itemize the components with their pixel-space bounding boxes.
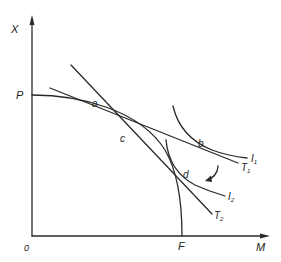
ppf-diagram: X M 0 P F a c b d I1 T1 I2 T2 <box>0 0 281 262</box>
label-T1: T1 <box>241 162 250 174</box>
x-axis-label: M <box>256 241 266 253</box>
line-T1 <box>50 88 238 163</box>
y-axis-label: X <box>10 23 19 35</box>
point-a-label: a <box>92 98 98 109</box>
y-axis-arrow-icon <box>30 15 35 25</box>
label-T2: T2 <box>214 210 224 222</box>
point-b-label: b <box>198 138 204 149</box>
line-T2 <box>71 65 212 214</box>
f-intercept-label: F <box>178 240 186 252</box>
indifference-curve-I2 <box>166 140 225 196</box>
x-axis-arrow-icon <box>260 234 270 239</box>
label-I1: I1 <box>251 153 257 165</box>
p-intercept-label: P <box>16 89 24 101</box>
point-d-label: d <box>183 169 189 180</box>
shift-arrow-head-icon <box>205 176 212 183</box>
ppf-curve <box>32 95 182 236</box>
point-c-label: c <box>120 133 125 144</box>
indifference-curve-I1 <box>173 106 247 158</box>
label-I2: I2 <box>228 191 235 203</box>
origin-label: 0 <box>24 243 29 253</box>
